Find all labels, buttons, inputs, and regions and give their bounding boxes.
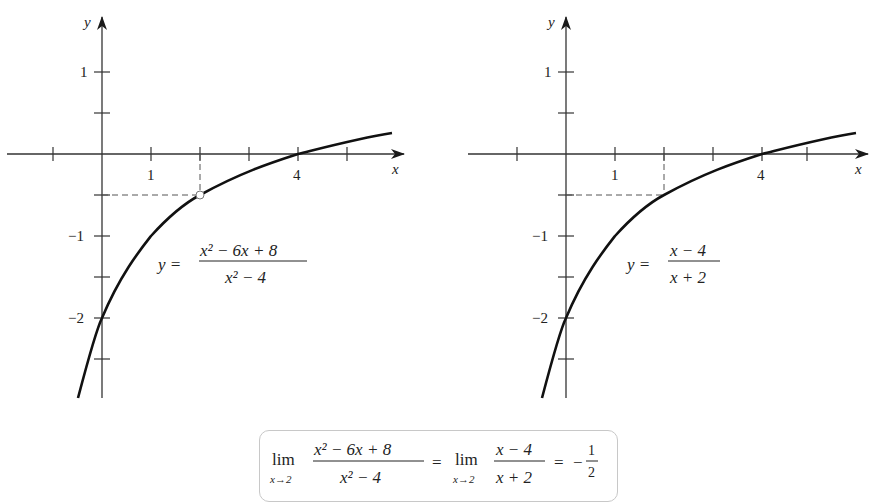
y-axis-label: y (546, 14, 555, 30)
svg-text:x + 2: x + 2 (669, 268, 707, 287)
frac2-den: x + 2 (495, 468, 533, 487)
y-tick-label-neg2: −2 (68, 310, 84, 326)
right-graph: y x 1 4 1 −1 −2 y = x − 4 x + 2 (468, 14, 868, 398)
y-tick-label-1: 1 (544, 64, 552, 80)
y-tick-label-neg2: −2 (532, 310, 548, 326)
lim-sub-2: x→2 (452, 473, 475, 485)
result-den: 2 (588, 465, 595, 480)
svg-text:x² − 4: x² − 4 (224, 268, 267, 287)
frac1-num: x² − 6x + 8 (313, 440, 392, 459)
function-curve (542, 133, 856, 398)
equation-label: y = x − 4 x + 2 (625, 241, 720, 287)
left-graph: y x 1 4 1 −1 −2 y = x² − 6x + 8 x² − 4 (7, 14, 404, 398)
limit-equation: lim x→2 x² − 6x + 8 x² − 4 = lim x→2 x −… (260, 431, 617, 501)
x-tick-label-1: 1 (611, 167, 619, 183)
svg-text:y =: y = (156, 255, 181, 274)
lim-label-1: lim (272, 450, 295, 469)
equals-1: = (432, 453, 442, 472)
result-num: 1 (588, 443, 595, 458)
svg-text:x − 4: x − 4 (669, 241, 707, 260)
y-axis-label: y (82, 14, 91, 30)
function-curve (78, 133, 392, 398)
y-tick-label-1: 1 (80, 64, 88, 80)
svg-text:x² − 6x + 8: x² − 6x + 8 (199, 241, 278, 260)
limit-equation-box: lim x→2 x² − 6x + 8 x² − 4 = lim x→2 x −… (259, 430, 618, 502)
x-axis-label: x (854, 161, 862, 177)
lim-sub-1: x→2 (269, 473, 292, 485)
y-tick-label-neg1: −1 (68, 228, 84, 244)
frac1-den: x² − 4 (339, 468, 382, 487)
x-tick-label-1: 1 (147, 167, 155, 183)
svg-text:y =: y = (625, 255, 650, 274)
lim-label-2: lim (455, 450, 478, 469)
x-axis-label: x (391, 161, 399, 177)
equation-label: y = x² − 6x + 8 x² − 4 (156, 241, 307, 287)
hole-point (196, 191, 204, 199)
x-tick-label-4: 4 (293, 167, 301, 183)
negative-sign: − (573, 453, 583, 472)
y-tick-label-neg1: −1 (532, 228, 548, 244)
frac2-num: x − 4 (495, 440, 533, 459)
x-tick-label-4: 4 (757, 167, 765, 183)
equals-2: = (554, 453, 564, 472)
